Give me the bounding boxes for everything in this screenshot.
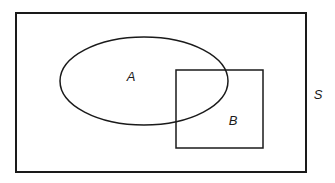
venn-diagram-canvas: A B S xyxy=(0,0,335,183)
set-b-rectangle xyxy=(176,70,263,148)
set-a-label: A xyxy=(126,69,136,84)
venn-diagram-svg: A B S xyxy=(0,0,335,183)
universal-set-label: S xyxy=(314,87,323,102)
set-a-ellipse xyxy=(60,37,228,125)
set-b-label: B xyxy=(229,113,238,128)
